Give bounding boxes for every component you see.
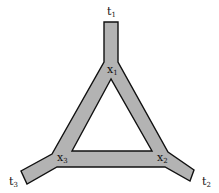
label-t3: t3 bbox=[9, 176, 18, 189]
label-t2: t2 bbox=[202, 176, 211, 189]
diagram-canvas: t1 x1 x2 x3 t2 t3 bbox=[0, 0, 219, 193]
label-t1: t1 bbox=[107, 6, 116, 19]
network-body bbox=[21, 22, 194, 184]
triangle-network-shape bbox=[0, 0, 219, 193]
label-x3: x3 bbox=[57, 152, 68, 165]
label-x2: x2 bbox=[157, 152, 168, 165]
label-x1: x1 bbox=[107, 64, 118, 77]
